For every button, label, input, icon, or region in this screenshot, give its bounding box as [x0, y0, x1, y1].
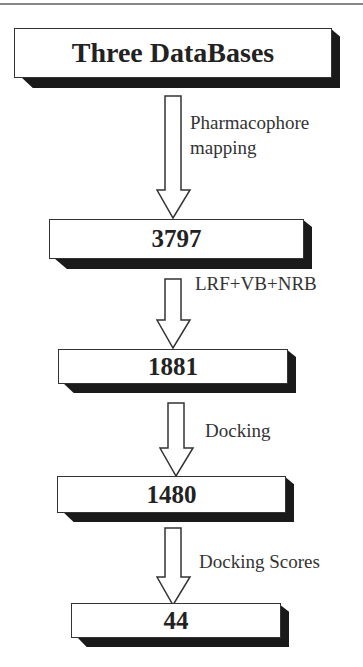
node-44: 44 — [71, 603, 281, 638]
down-arrow-icon — [156, 527, 192, 607]
down-arrow-icon — [159, 402, 195, 478]
node-3797: 3797 — [49, 219, 304, 259]
node-label: 44 — [164, 607, 189, 635]
node-label: 1881 — [148, 353, 198, 381]
node-1480: 1480 — [57, 476, 286, 513]
node-label: 3797 — [152, 225, 202, 253]
node-1881: 1881 — [58, 349, 288, 384]
edge-label-docking-scores: Docking Scores — [199, 549, 320, 574]
edge-label-pharmacophore: Pharmacophore mapping — [190, 110, 309, 160]
node-shadow — [54, 258, 312, 269]
edge-label-line: Pharmacophore — [190, 110, 309, 135]
edge-label-lrf-vb-nrb: LRF+VB+NRB — [195, 271, 317, 296]
edge-label-line: mapping — [190, 135, 309, 160]
node-label: Three DataBases — [72, 37, 274, 69]
node-label: 1480 — [147, 481, 197, 509]
down-arrow-icon — [156, 95, 192, 221]
node-three-databases: Three DataBases — [14, 28, 332, 78]
down-arrow-icon — [156, 278, 192, 350]
edge-label-docking: Docking — [205, 418, 270, 443]
top-border-line — [0, 3, 363, 5]
